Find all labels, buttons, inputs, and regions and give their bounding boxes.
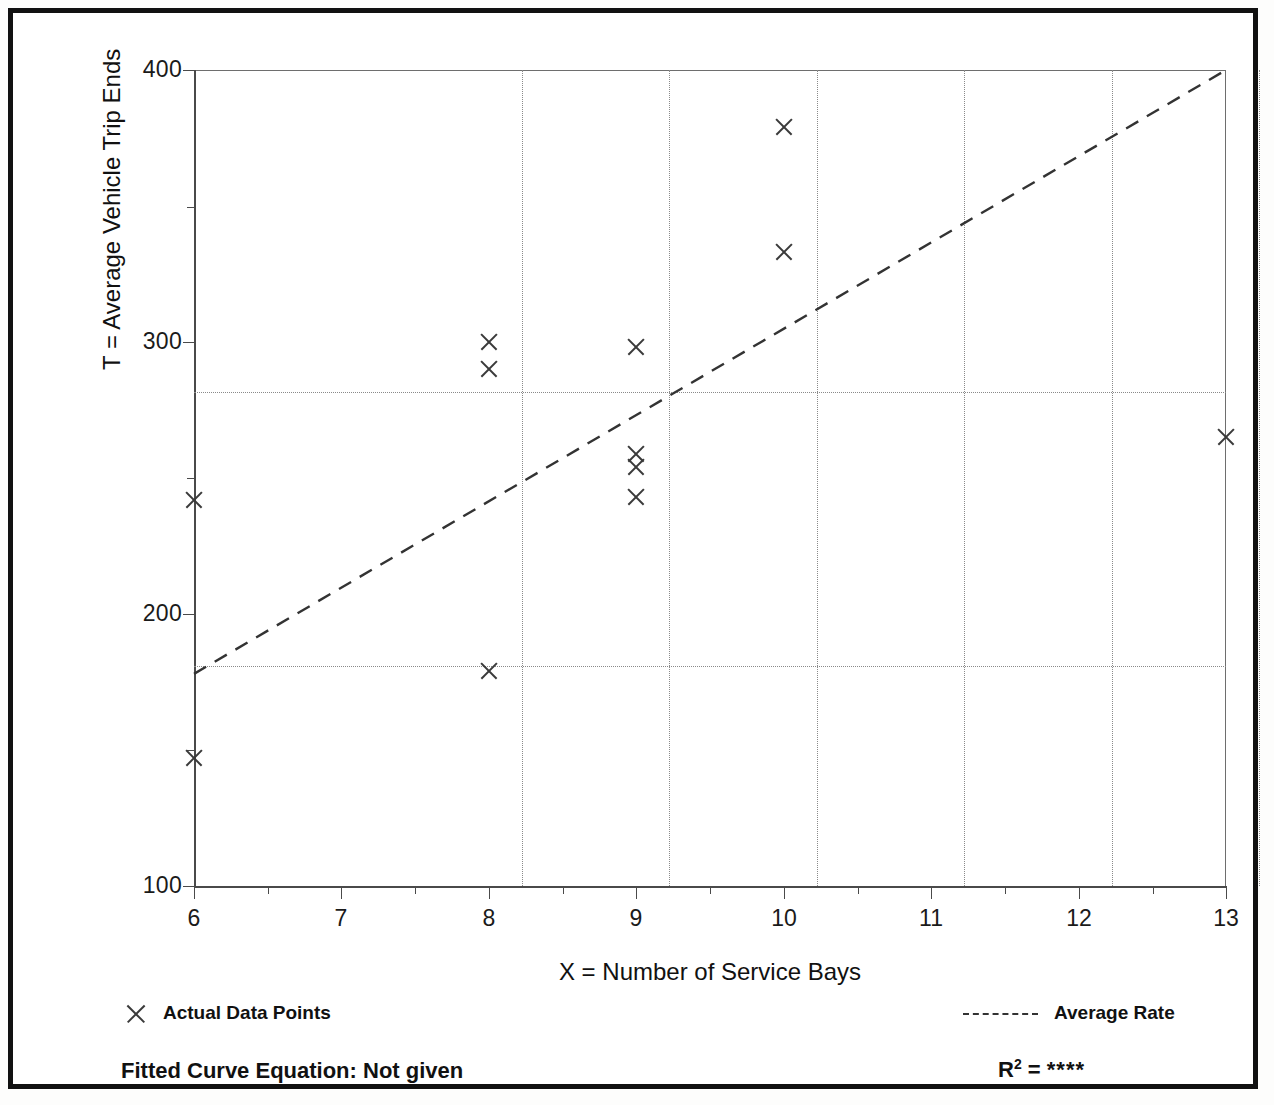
x-tick-label-7: 7 xyxy=(301,905,381,932)
x-tick-label-13: 13 xyxy=(1186,905,1266,932)
r-squared-symbol: R xyxy=(998,1057,1014,1082)
data-point-marker xyxy=(183,747,205,769)
x-tick-label-8: 8 xyxy=(449,905,529,932)
x-axis-title: X = Number of Service Bays xyxy=(194,958,1226,986)
r-squared-equals: = xyxy=(1028,1057,1041,1082)
x-tick-6 xyxy=(194,886,195,899)
data-point-marker xyxy=(625,456,647,478)
x-tick-minor-7-5 xyxy=(415,886,416,894)
y-axis-title: T = Average Vehicle Trip Ends xyxy=(98,49,126,370)
y-tick-label-200: 200 xyxy=(62,600,182,627)
figure-page: 400 300 200 100 6 7 8 9 10 11 12 xyxy=(0,0,1274,1105)
data-point-marker xyxy=(1215,426,1237,448)
data-point-marker xyxy=(478,331,500,353)
x-tick-12 xyxy=(1079,886,1080,899)
data-point-marker xyxy=(625,486,647,508)
x-marker-icon xyxy=(124,1002,148,1026)
x-tick-11 xyxy=(931,886,932,899)
x-tick-13 xyxy=(1226,886,1227,899)
r-squared-value: **** xyxy=(1047,1057,1085,1082)
x-tick-label-11: 11 xyxy=(891,905,971,932)
data-point-marker xyxy=(773,116,795,138)
x-tick-10 xyxy=(784,886,785,899)
x-tick-label-12: 12 xyxy=(1039,905,1119,932)
x-tick-minor-8-5 xyxy=(563,886,564,894)
dashed-line-icon xyxy=(963,1013,1038,1015)
r-squared-exponent: 2 xyxy=(1014,1056,1022,1072)
legend-average-rate-label: Average Rate xyxy=(1054,1002,1175,1024)
x-tick-label-9: 9 xyxy=(596,905,676,932)
x-tick-7 xyxy=(341,886,342,899)
gridline-x-12 xyxy=(1259,70,1260,886)
figure-border-frame: 400 300 200 100 6 7 8 9 10 11 12 xyxy=(8,8,1258,1089)
data-point-marker xyxy=(773,241,795,263)
data-point-marker xyxy=(625,336,647,358)
average-rate-trendline xyxy=(194,70,1226,886)
plot-area: 400 300 200 100 6 7 8 9 10 11 12 xyxy=(194,70,1226,886)
data-point-marker xyxy=(183,489,205,511)
x-tick-minor-12-5 xyxy=(1153,886,1154,894)
r-squared-annotation: R2 = **** xyxy=(998,1056,1085,1083)
x-tick-minor-10-5 xyxy=(858,886,859,894)
x-tick-9 xyxy=(636,886,637,899)
x-tick-minor-9-5 xyxy=(710,886,711,894)
x-tick-8 xyxy=(489,886,490,899)
y-tick-label-100: 100 xyxy=(62,872,182,899)
fitted-curve-equation-text: Fitted Curve Equation: Not given xyxy=(121,1058,463,1084)
legend-actual-data-points-label: Actual Data Points xyxy=(163,1002,331,1024)
x-tick-label-6: 6 xyxy=(154,905,234,932)
x-tick-label-10: 10 xyxy=(744,905,824,932)
data-point-marker xyxy=(478,660,500,682)
x-tick-minor-6-5 xyxy=(268,886,269,894)
data-point-marker xyxy=(478,358,500,380)
x-tick-minor-11-5 xyxy=(1005,886,1006,894)
